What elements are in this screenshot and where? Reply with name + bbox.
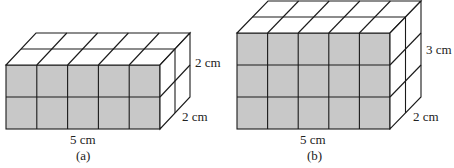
figure-a-height-label: 2 cm	[195, 55, 221, 70]
figure-a-length-label: 5 cm	[70, 132, 96, 147]
figure-b-length-label: 5 cm	[300, 132, 326, 147]
cuboid-diagrams: 2 cm 2 cm 5 cm (a) 3 cm 2 cm 5 cm (b)	[0, 0, 454, 168]
figure-a-caption: (a)	[76, 148, 90, 163]
figure-b-height-label: 3 cm	[426, 42, 452, 57]
figure-b-cuboid	[237, 1, 421, 129]
figure-a-depth-label: 2 cm	[182, 109, 208, 124]
figure-b-caption: (b)	[307, 148, 322, 163]
figure-b-front-face	[237, 33, 390, 129]
figure-a-cuboid	[6, 33, 190, 129]
figure-b-depth-label: 2 cm	[413, 109, 439, 124]
